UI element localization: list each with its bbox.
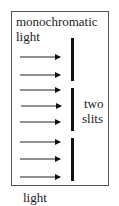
light-arrows xyxy=(0,0,119,206)
caption: light xyxy=(23,190,47,205)
